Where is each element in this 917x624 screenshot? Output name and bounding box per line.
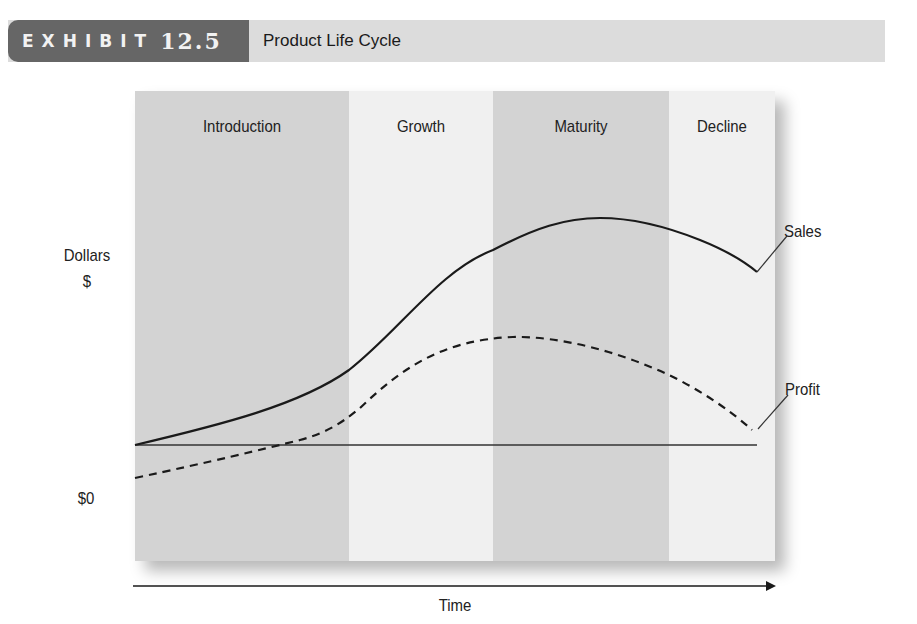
curves-overlay	[0, 0, 917, 624]
profit-curve	[135, 337, 752, 478]
x-axis-label: Time	[429, 596, 482, 616]
profit-leader-line	[758, 395, 788, 429]
sales-label: Sales	[784, 222, 821, 242]
time-axis-arrowhead-icon	[766, 581, 776, 591]
profit-label: Profit	[785, 380, 820, 400]
sales-leader-line	[757, 236, 787, 272]
sales-curve	[135, 218, 757, 445]
